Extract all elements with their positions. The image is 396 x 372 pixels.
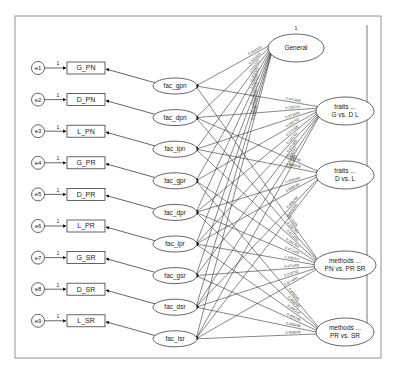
path-traits_dl-fac_lpn: [196, 149, 320, 173]
factor-to-observed-path: [106, 290, 156, 304]
path-methods_pn-fac_gsr: [196, 266, 319, 275]
fixed-loading-label: 1: [57, 60, 60, 66]
fixed-loading-label: 1: [57, 218, 60, 224]
contrast-label-line1: traits ...: [334, 167, 356, 174]
error-label: e4: [35, 160, 42, 166]
path-traits_dl-fac_lsr: [196, 177, 320, 339]
factor-to-observed-path: [106, 132, 156, 146]
error-label: e1: [35, 65, 42, 71]
factor-label: fac_dpr: [164, 209, 187, 217]
path-general-fac_dpr: [196, 48, 272, 213]
error-label: e9: [35, 318, 42, 324]
factor-label: fac_gpn: [163, 82, 187, 90]
factor-to-observed-path: [106, 164, 156, 178]
observed-label: D_SR: [77, 286, 96, 294]
factor-label: fac_gpr: [164, 177, 187, 185]
fixed-loading-label: 1: [57, 92, 60, 98]
observed-label: L_PN: [77, 128, 95, 136]
fixed-loading-label: 1: [57, 124, 60, 130]
path-traits_dl-fac_lpr: [196, 175, 320, 244]
factor-label: fac_dpn: [163, 114, 187, 122]
contrast-label-line1: traits ...: [334, 103, 356, 110]
contrast-label-line2: D vs. L: [335, 175, 356, 182]
factor-to-observed-path: [106, 101, 156, 115]
error-label: e7: [35, 255, 42, 261]
path-general-fac_gpr: [196, 47, 272, 181]
observed-label: L_PR: [77, 222, 95, 230]
path-methods_pn-fac_gpn: [196, 86, 319, 261]
factor-label: fac_lpn: [165, 145, 186, 153]
path-general-fac_lsr: [196, 51, 272, 339]
path-methods_pn-fac_dpn: [196, 118, 319, 262]
path-methods_prsr-fac_lsr: [196, 334, 320, 339]
path-methods_prsr-fac_gsr: [196, 276, 320, 332]
contrast-label-line2: PN vs. PR SR: [325, 265, 366, 272]
path-methods_pn-fac_lpr: [196, 244, 319, 265]
observed-label: G_PN: [76, 64, 95, 72]
error-label: e2: [35, 97, 42, 103]
factor-label: fac_dsr: [164, 303, 186, 311]
fixed-loading-label: 1: [57, 187, 60, 193]
factor-to-observed-path: [106, 195, 156, 209]
contrast-label-line2: PR vs. SR: [330, 332, 360, 339]
path-general-fac_gpn: [196, 44, 272, 86]
error-label: e6: [35, 223, 42, 229]
factor-label: fac_gsr: [164, 272, 186, 280]
factor-to-observed-path: [106, 227, 156, 241]
factor-to-observed-path: [106, 322, 156, 336]
contrast-label-line2: G vs. D L: [331, 111, 358, 118]
observed-label: G_SR: [76, 254, 95, 262]
path-methods_prsr-fac_gpr: [196, 181, 320, 329]
factor-label: fac_lpr: [165, 240, 185, 248]
factor-to-observed-path: [106, 259, 156, 273]
fixed-loading-label: 1: [57, 282, 60, 288]
error-label: e3: [35, 128, 42, 134]
fixed-loading-label: 1: [57, 250, 60, 256]
factor-label: fac_lsr: [165, 335, 185, 343]
contrast-label-line1: methods ...: [329, 257, 361, 264]
fixed-loading-label: 1: [57, 155, 60, 161]
contrast-paths: 0.3333330.3333330.3333330.3333330.333333…: [196, 44, 320, 339]
path-traits_gdl-fac_lpn: [196, 109, 320, 149]
contrast-label: General: [284, 44, 308, 51]
variance-label: 1: [295, 25, 298, 31]
path-traits_gdl-fac_gsr: [196, 112, 320, 275]
path-label: 0.471405: [284, 276, 299, 287]
error-label: e5: [35, 191, 42, 197]
path-traits_gdl-fac_lpr: [196, 111, 320, 244]
observed-label: G_PR: [76, 159, 95, 167]
path-label: 0.471405: [284, 263, 299, 268]
path-label: 0.408248: [285, 330, 300, 335]
path-methods_prsr-fac_dpr: [196, 212, 320, 330]
sem-path-diagram: 0.3333330.3333330.3333330.3333330.333333…: [0, 0, 396, 372]
observed-label: D_PR: [77, 191, 96, 199]
path-methods_prsr-fac_dsr: [196, 307, 320, 333]
factor-to-observed-path: [106, 69, 156, 83]
fixed-loading-label: 1: [57, 313, 60, 319]
observed-label: D_PN: [77, 96, 96, 104]
error-label: e8: [35, 286, 42, 292]
observed-label: L_SR: [77, 317, 95, 325]
path-label: 0.235702: [285, 105, 300, 110]
path-general-fac_dpn: [196, 45, 272, 118]
path-general-fac_lpn: [196, 46, 272, 149]
contrast-label-line1: methods ...: [329, 324, 361, 331]
